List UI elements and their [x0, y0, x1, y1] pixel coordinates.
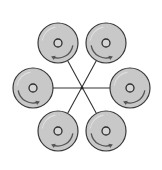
diagram-canvas: [0, 0, 162, 170]
disc-bottom-right: [86, 111, 126, 151]
disc-center-hole-icon: [54, 127, 62, 135]
center-hub: [81, 87, 84, 90]
disc-left: [13, 68, 53, 108]
disc-center-hole-icon: [126, 84, 134, 92]
disc-bottom-left: [38, 111, 78, 151]
disc-top-left: [38, 23, 78, 63]
disc-right: [110, 68, 150, 108]
disc-center-hole-icon: [102, 127, 110, 135]
disc-center-hole-icon: [29, 84, 37, 92]
disc-center-hole-icon: [102, 39, 110, 47]
disc-center-hole-icon: [54, 39, 62, 47]
disc-hexagon-diagram: [0, 0, 162, 170]
disc-top-right: [86, 23, 126, 63]
